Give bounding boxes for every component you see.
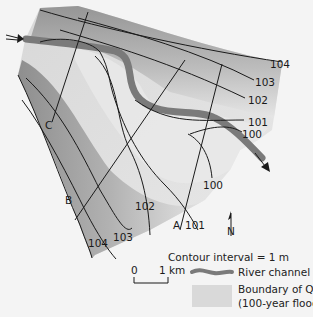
contour-label-100-right: 100: [242, 128, 262, 140]
inflow-arrow-icon: [6, 34, 24, 43]
contour-label-104-right: 104: [270, 58, 290, 70]
legend-river-swatch-icon: [192, 270, 232, 273]
flood-map-figure: N 104 103 102 101 100 104 103 102 101 10…: [0, 0, 313, 317]
north-label: N: [227, 225, 235, 237]
section-label-a: A: [173, 219, 181, 231]
section-label-b: B: [65, 194, 72, 206]
boundary-prefix: Boundary of Q: [238, 283, 313, 295]
contour-label-103-right: 103: [255, 76, 275, 88]
scale-label-zero: 0: [131, 264, 138, 276]
contour-label-102-right: 102: [248, 94, 268, 106]
contour-label-101-bottom: 101: [185, 219, 205, 231]
scale-bar: 0 1 km: [131, 264, 185, 283]
legend-boundary-note: (100-year flood): [238, 297, 313, 309]
legend-flood-swatch-icon: [192, 285, 232, 307]
contour-label-103-bottom: 103: [113, 231, 133, 243]
contour-label-104-bottom: 104: [88, 237, 108, 249]
scale-label-one: 1 km: [159, 264, 185, 276]
contour-label-102-bottom: 102: [135, 200, 155, 212]
north-arrow-icon: N: [227, 211, 235, 237]
contour-label-100-bottom: 100: [203, 179, 223, 191]
contour-interval-note: Contour interval = 1 m: [168, 251, 289, 263]
legend-boundary-label: Boundary of Q100: [238, 283, 313, 298]
legend-river-label: River channel: [238, 266, 310, 278]
section-label-c: C: [45, 119, 52, 131]
contour-label-101-right: 101: [248, 116, 268, 128]
